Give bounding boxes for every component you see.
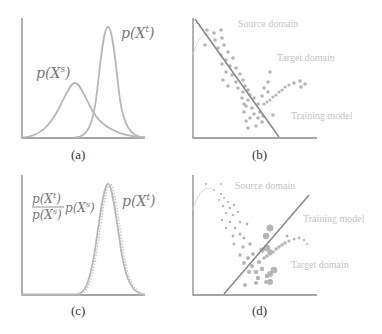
svg-text:p(Xs): p(Xs) — [32, 207, 62, 222]
target-distribution-label-c: p(Xt) — [122, 192, 155, 209]
training-model-label: Training model — [291, 110, 353, 121]
training-model-label-d: Training model — [303, 213, 365, 224]
panel-c: p(Xt) p(Xs) p(Xs) p(Xt) (c) — [22, 175, 155, 318]
caption-c: (c) — [71, 303, 85, 318]
source-domain-label: Source domain — [238, 18, 298, 29]
source-domain-label-d: Source domain — [235, 180, 295, 191]
training-model-line — [195, 19, 279, 137]
axes-d — [193, 175, 317, 295]
panel-a: p(Xs) p(Xt) (a) — [22, 18, 154, 162]
training-model-line-d — [224, 195, 309, 294]
target-distribution-label: p(Xt) — [121, 24, 154, 41]
target-domain-label-d: Target domain — [291, 259, 349, 270]
figure: p(Xs) p(Xt) (a) — [0, 0, 382, 334]
svg-text:p(Xs): p(Xs) — [65, 200, 95, 215]
reweighted-source-label: p(Xt) p(Xs) p(Xs) — [32, 191, 95, 222]
svg-text:p(Xt): p(Xt) — [32, 191, 61, 206]
caption-a: (a) — [71, 147, 85, 162]
panel-b: Source domain Target domain Training mod… — [193, 18, 353, 162]
source-distribution-label: p(Xs) — [36, 64, 70, 81]
source-distribution-curve — [22, 83, 145, 138]
caption-d: (d) — [252, 303, 267, 318]
caption-b: (b) — [252, 147, 267, 162]
scatter-points-d — [205, 183, 308, 287]
source-arc-d — [193, 188, 212, 210]
panel-d: Source domain Training model Target doma… — [193, 175, 365, 318]
target-distribution-curve — [75, 27, 145, 138]
target-domain-label: Target domain — [277, 52, 335, 63]
